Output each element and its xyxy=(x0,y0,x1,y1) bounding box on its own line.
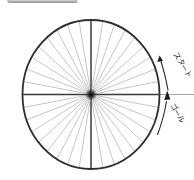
start-arrow xyxy=(161,62,168,91)
start-label: スタート xyxy=(171,50,193,80)
goal-label: ゴール xyxy=(168,101,188,126)
page: { "labels": { "start": "スタート", "goal": "… xyxy=(0,0,194,180)
start-arrowhead-icon xyxy=(157,56,163,63)
wheel-figure: スタート ゴール xyxy=(0,0,194,180)
goal-arrowhead-icon xyxy=(164,91,170,101)
center-hub xyxy=(85,89,97,101)
